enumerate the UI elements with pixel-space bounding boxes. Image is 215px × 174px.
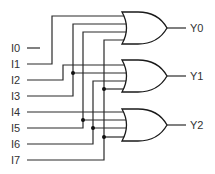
or-gate-y1: [122, 60, 167, 92]
input-label-i4: I4: [11, 106, 20, 118]
wire-i3: [27, 24, 127, 96]
input-label-i1: I1: [11, 58, 20, 70]
output-label-y0: Y0: [190, 22, 203, 34]
junction-dot: [91, 126, 95, 130]
or-gate-y2: [122, 109, 167, 141]
input-label-i2: I2: [11, 74, 20, 86]
junction-dot: [102, 135, 106, 139]
encoder-diagram: I0 I1 I2 I3 I4 I5 I6 I7 Y0 Y1 Y2: [0, 0, 215, 174]
output-label-y1: Y1: [190, 70, 203, 82]
output-label-y2: Y2: [190, 119, 203, 131]
input-label-i0: I0: [11, 42, 20, 54]
junction-dot: [102, 87, 106, 91]
wire-i7: [27, 40, 126, 160]
input-label-i5: I5: [11, 122, 20, 134]
input-label-i7: I7: [11, 154, 20, 166]
input-label-i6: I6: [11, 138, 20, 150]
input-label-i3: I3: [11, 90, 20, 102]
or-gate-y0: [122, 12, 167, 44]
junction-dot: [71, 71, 75, 75]
junction-dot: [81, 118, 85, 122]
